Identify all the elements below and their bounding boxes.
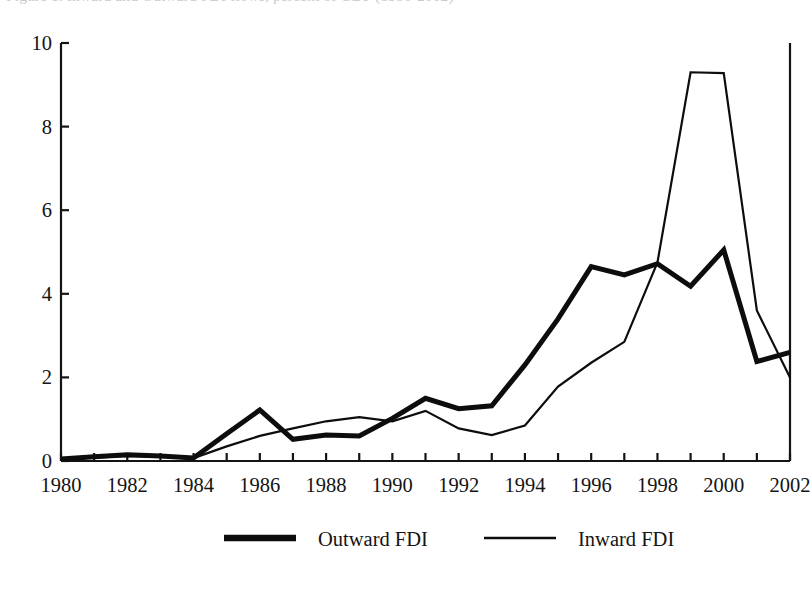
line-chart: 0 2 4 6 8 10 198019821984198619881990199… (0, 0, 811, 589)
y-tick-label-4: 4 (42, 283, 52, 305)
legend-label-inward-fdi: Inward FDI (578, 528, 674, 550)
x-tick-label-1988: 1988 (306, 474, 347, 496)
x-tick-label-1994: 1994 (504, 474, 545, 496)
x-tick-label-2000: 2000 (703, 474, 744, 496)
series-group (61, 72, 790, 459)
y-tick-label-2: 2 (42, 366, 52, 388)
x-axis-labels: 1980198219841986198819901992199419961998… (41, 474, 811, 496)
x-tick-label-1990: 1990 (372, 474, 413, 496)
series-line-outward-fdi (61, 250, 790, 459)
x-tick-label-2002: 2002 (770, 474, 811, 496)
y-tick-label-8: 8 (42, 116, 52, 138)
y-tick-label-10: 10 (32, 32, 53, 54)
x-tick-label-1982: 1982 (107, 474, 148, 496)
legend-label-outward-fdi: Outward FDI (318, 528, 428, 550)
chart-legend: Outward FDI Inward FDI (224, 528, 674, 550)
y-tick-label-0: 0 (42, 450, 52, 472)
x-tick-label-1998: 1998 (637, 474, 678, 496)
x-tick-label-1992: 1992 (438, 474, 479, 496)
figure-container: Figure 1. Inward and Outward FDI flows, … (0, 0, 811, 589)
x-tick-label-1980: 1980 (41, 474, 82, 496)
y-axis-labels: 0 2 4 6 8 10 (32, 32, 53, 472)
y-axis-ticks (61, 43, 69, 461)
x-tick-label-1996: 1996 (571, 474, 612, 496)
y-tick-label-6: 6 (42, 199, 52, 221)
x-tick-label-1986: 1986 (239, 474, 280, 496)
x-tick-label-1984: 1984 (173, 474, 214, 496)
